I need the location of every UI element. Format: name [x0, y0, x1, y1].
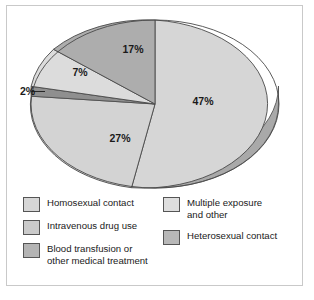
- legend-label-homosexual-contact: Homosexual contact: [47, 196, 134, 209]
- pie-label-47: 47%: [192, 95, 214, 107]
- legend-label-intravenous-drug-use: Intravenous drug use: [47, 219, 137, 232]
- pie-label-2: 2%: [20, 85, 36, 97]
- pie-label-17: 17%: [122, 43, 144, 55]
- legend-item-multiple-exposure[interactable]: Multiple exposure and other: [163, 196, 303, 220]
- pie-label-27: 27%: [109, 132, 131, 144]
- legend-column-right: Multiple exposure and other Heterosexual…: [163, 196, 303, 252]
- legend-column-left: Homosexual contact Intravenous drug use …: [23, 196, 163, 273]
- legend-item-blood-transfusion[interactable]: Blood transfusion or other medical treat…: [23, 242, 163, 266]
- legend-swatch-homosexual-contact: [23, 197, 40, 212]
- legend-swatch-intravenous-drug-use: [23, 220, 40, 235]
- pie-label-7: 7%: [72, 66, 88, 78]
- legend-swatch-blood-transfusion: [23, 243, 40, 258]
- legend-label-blood-transfusion: Blood transfusion or other medical treat…: [47, 242, 148, 266]
- chart-frame: 47% 27% 2% 7% 17% Homosexual contact Int…: [6, 5, 303, 286]
- chart-legend: Homosexual contact Intravenous drug use …: [15, 196, 296, 284]
- legend-item-intravenous-drug-use[interactable]: Intravenous drug use: [23, 219, 163, 235]
- legend-label-heterosexual-contact: Heterosexual contact: [187, 229, 277, 242]
- legend-item-heterosexual-contact[interactable]: Heterosexual contact: [163, 229, 303, 245]
- legend-item-homosexual-contact[interactable]: Homosexual contact: [23, 196, 163, 212]
- pie-svg: 47% 27% 2% 7% 17%: [7, 6, 304, 196]
- legend-swatch-heterosexual-contact: [163, 230, 180, 245]
- pie-chart-figure: 47% 27% 2% 7% 17% Homosexual contact Int…: [0, 0, 314, 300]
- legend-label-multiple-exposure: Multiple exposure and other: [187, 196, 262, 220]
- legend-swatch-multiple-exposure: [163, 197, 180, 212]
- pie-chart-area: 47% 27% 2% 7% 17%: [7, 6, 304, 196]
